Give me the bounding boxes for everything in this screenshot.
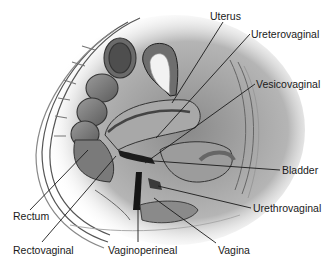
- label-rectovaginal: Rectovaginal: [13, 244, 74, 256]
- label-ureterovaginal: Ureterovaginal: [251, 28, 319, 40]
- label-vesicovaginal: Vesicovaginal: [256, 78, 320, 90]
- label-rectum: Rectum: [13, 210, 49, 222]
- pelvic-anatomy-diagram: [0, 0, 332, 268]
- label-vagina: Vagina: [218, 244, 250, 256]
- label-uterus: Uterus: [210, 10, 241, 22]
- label-bladder: Bladder: [282, 164, 318, 176]
- label-vaginoperineal: Vaginoperineal: [108, 244, 177, 256]
- label-urethrovaginal: Urethrovaginal: [253, 202, 321, 214]
